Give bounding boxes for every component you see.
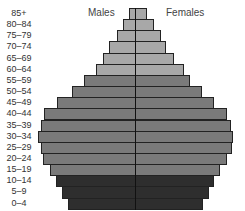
age-label: 45–49 [0, 97, 38, 108]
age-label: 40–44 [0, 108, 38, 119]
age-label: 50–54 [0, 86, 38, 97]
male-bar [68, 198, 136, 210]
age-label: 80–84 [0, 19, 38, 30]
age-label: 65–69 [0, 53, 38, 64]
age-label: 10–14 [0, 175, 38, 186]
age-label: 35–39 [0, 120, 38, 131]
age-label: 15–19 [0, 164, 38, 175]
age-label: 75–79 [0, 30, 38, 41]
age-label: 70–74 [0, 41, 38, 52]
female-bar [135, 198, 203, 210]
age-label: 0–4 [0, 198, 38, 209]
age-label: 85+ [0, 8, 38, 19]
age-label: 5–9 [0, 186, 38, 197]
legend-females: Females [166, 7, 204, 18]
population-pyramid-chart: 85+80–8475–7970–7465–6960–6455–5950–5445… [0, 0, 245, 211]
center-axis-line [135, 8, 136, 210]
age-label: 60–64 [0, 64, 38, 75]
age-label: 30–34 [0, 131, 38, 142]
legend-males: Males [88, 7, 115, 18]
age-label: 20–24 [0, 153, 38, 164]
age-label: 25–29 [0, 142, 38, 153]
age-label: 55–59 [0, 75, 38, 86]
